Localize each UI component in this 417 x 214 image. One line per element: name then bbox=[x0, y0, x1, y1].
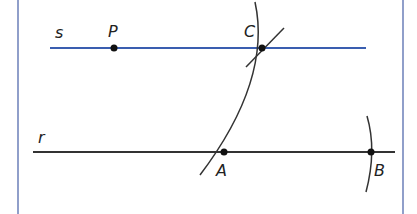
point-p bbox=[111, 45, 118, 52]
point-b bbox=[368, 149, 375, 156]
point-c-label: C bbox=[244, 22, 256, 41]
line-r-label: r bbox=[38, 128, 46, 147]
point-a-label: A bbox=[215, 161, 227, 180]
point-b-label: B bbox=[374, 161, 385, 180]
point-p-label: P bbox=[108, 22, 118, 41]
point-a bbox=[221, 149, 228, 156]
construction-diagram: s r P C A B bbox=[0, 0, 417, 214]
line-s-label: s bbox=[55, 23, 63, 42]
point-c bbox=[259, 45, 266, 52]
